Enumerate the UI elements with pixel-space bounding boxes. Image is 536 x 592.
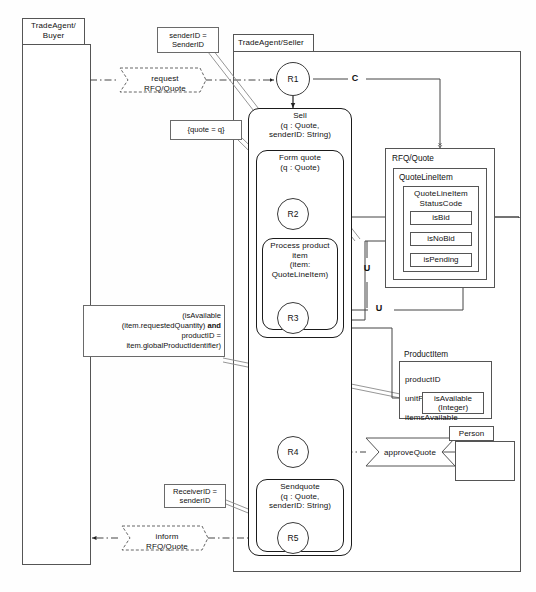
diagram-canvas: TradeAgent/ Buyer TradeAgent/Seller requ… bbox=[0, 0, 536, 592]
approve-quote-shape bbox=[0, 0, 536, 592]
class-person-tab: Person bbox=[449, 426, 494, 441]
